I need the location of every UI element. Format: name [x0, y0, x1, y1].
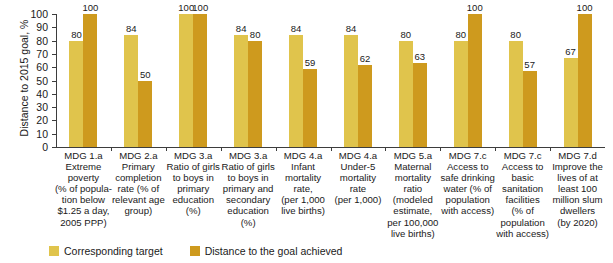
category-label-line: with access) — [492, 228, 553, 239]
category-label-line: (%) — [218, 217, 279, 228]
y-axis-tick-label: 10 — [22, 128, 48, 140]
legend-label: Corresponding target — [64, 245, 163, 257]
category-label-line: rate, — [273, 183, 334, 194]
bar-achieved — [468, 14, 482, 147]
category-label-line: least 100 — [547, 183, 608, 194]
bar-value-label: 84 — [336, 24, 366, 34]
y-axis-tick — [52, 94, 56, 95]
bar-value-label: 50 — [130, 70, 160, 80]
bar-target — [234, 35, 248, 147]
bar-value-label: 100 — [460, 3, 490, 13]
category-label: MDG 7.dImprove thelives of atleast 100mi… — [547, 150, 608, 228]
category-label-line: (by 2020) — [547, 217, 608, 228]
y-axis-tick-label: 40 — [22, 88, 48, 100]
y-axis-tick-label: 0 — [22, 141, 48, 153]
bar-group: 67100 — [564, 14, 592, 147]
y-axis-tick — [52, 41, 56, 42]
bar-achieved — [413, 63, 427, 147]
category-label-line: to boys in — [218, 172, 279, 183]
bar-target — [454, 41, 468, 147]
bar-value-label: 80 — [501, 30, 531, 40]
category-label-line: MDG 4.a — [273, 150, 334, 161]
bar-target — [69, 41, 83, 147]
category-label-line: Improve the — [547, 161, 608, 172]
category-label-line: million slum — [547, 194, 608, 205]
category-label-line: education — [218, 205, 279, 216]
bar-group: 8462 — [344, 14, 372, 147]
bar-achieved — [578, 14, 592, 147]
bar-group: 8459 — [289, 14, 317, 147]
category-label-line: MDG 1.a — [53, 150, 114, 161]
category-label: MDG 7.cAccess tosafe drinkingwater (% of… — [437, 150, 498, 217]
legend-label: Distance to the goal achieved — [205, 245, 343, 257]
category-label: MDG 3.aRatio of girlsto boys inprimaryed… — [163, 150, 224, 217]
bar-achieved — [358, 65, 372, 147]
y-axis-tick — [52, 67, 56, 68]
category-label-line: Under-5 — [328, 161, 389, 172]
category-label-line: Ratio of girls — [163, 161, 224, 172]
y-axis-tick — [52, 107, 56, 108]
category-label-line: (per 1,000 — [273, 194, 334, 205]
category-label: MDG 1.aExtremepoverty(% of popula-tion b… — [53, 150, 114, 228]
category-label: MDG 2.aPrimarycompletionrate (% ofreleva… — [108, 150, 169, 217]
category-label-line: MDG 5.a — [382, 150, 443, 161]
category-label-line: MDG 7.c — [437, 150, 498, 161]
bar-value-label: 57 — [515, 60, 545, 70]
bar-value-label: 84 — [116, 24, 146, 34]
legend-item[interactable]: Corresponding target — [49, 245, 163, 257]
category-label-line: MDG 7.d — [547, 150, 608, 161]
bar-group: 8057 — [509, 14, 537, 147]
bar-value-label: 80 — [391, 30, 421, 40]
bar-value-label: 62 — [350, 54, 380, 64]
category-label-line: $1.25 a day, — [53, 205, 114, 216]
category-label-line: MDG 2.a — [108, 150, 169, 161]
y-axis-tick — [52, 54, 56, 55]
y-axis-tick — [52, 147, 56, 148]
bar-achieved — [303, 69, 317, 147]
legend-swatch-icon — [190, 246, 200, 256]
category-label-line: mortality — [382, 172, 443, 183]
category-label-line: live births) — [273, 205, 334, 216]
category-label-line: poverty — [53, 172, 114, 183]
y-axis-tick — [52, 134, 56, 135]
category-label: MDG 4.aInfantmortalityrate,(per 1,000liv… — [273, 150, 334, 217]
category-label-line: Infant — [273, 161, 334, 172]
category-label-line: education — [163, 194, 224, 205]
bar-group: 8480 — [234, 14, 262, 147]
category-label-line: Ratio of girls — [218, 161, 279, 172]
bar-value-label: 100 — [570, 3, 600, 13]
legend-item[interactable]: Distance to the goal achieved — [190, 245, 343, 257]
category-label-line: MDG 3.a — [218, 150, 279, 161]
category-label-line: sanitation — [492, 183, 553, 194]
category-label-line: primary and — [218, 183, 279, 194]
category-label-line: Extreme — [53, 161, 114, 172]
bar-target — [289, 35, 303, 147]
category-label-line: tion below — [53, 194, 114, 205]
bar-achieved — [83, 14, 97, 147]
y-axis-tick — [52, 14, 56, 15]
y-axis-tick-label: 60 — [22, 61, 48, 73]
category-label-line: 2005 PPP) — [53, 217, 114, 228]
category-label-line: mortality — [328, 172, 389, 183]
bar-achieved — [193, 14, 207, 147]
category-label-line: MDG 3.a — [163, 150, 224, 161]
category-label-line: facilities — [492, 194, 553, 205]
bar-achieved — [523, 71, 537, 147]
category-label-line: relevant age — [108, 194, 169, 205]
category-label-line: to boys in — [163, 172, 224, 183]
y-axis-line — [56, 14, 57, 147]
y-axis-tick — [52, 120, 56, 121]
bar-group: 80100 — [69, 14, 97, 147]
category-label-line: (%) — [163, 205, 224, 216]
category-label-line: secondary — [218, 194, 279, 205]
mdg-progress-bar-chart: Distance to 2015 goal, % 010203040506070… — [0, 0, 613, 263]
category-label-line: mortality — [273, 172, 334, 183]
bar-value-label: 100 — [75, 3, 105, 13]
y-axis-tick-label: 80 — [22, 35, 48, 47]
category-label: MDG 4.aUnder-5mortalityrate(per 1,000) — [328, 150, 389, 205]
category-axis-labels: MDG 1.aExtremepoverty(% of popula-tion b… — [56, 150, 605, 240]
y-axis-tick-label: 70 — [22, 48, 48, 60]
bar-group: 8063 — [399, 14, 427, 147]
category-label-line: (% of — [492, 205, 553, 216]
category-label-line: rate — [328, 183, 389, 194]
